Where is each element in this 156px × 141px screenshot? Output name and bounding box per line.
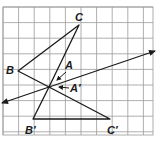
label-ap: A′	[69, 82, 82, 94]
label-a: A	[64, 59, 73, 71]
reflection-diagram: CBAA′B′C′	[0, 0, 156, 141]
label-bp: B′	[25, 124, 37, 136]
label-cp: C′	[107, 124, 119, 136]
pointer-arrow-a	[57, 72, 66, 80]
label-c: C	[75, 11, 84, 23]
reflection-line	[2, 51, 155, 103]
label-b: B	[6, 64, 14, 76]
label-pointer-arrows	[57, 72, 69, 88]
triangle-abc	[18, 25, 79, 87]
line-of-reflection	[2, 51, 155, 103]
diagram-canvas: CBAA′B′C′	[0, 0, 156, 141]
pointer-arrow-aprime	[59, 87, 69, 88]
